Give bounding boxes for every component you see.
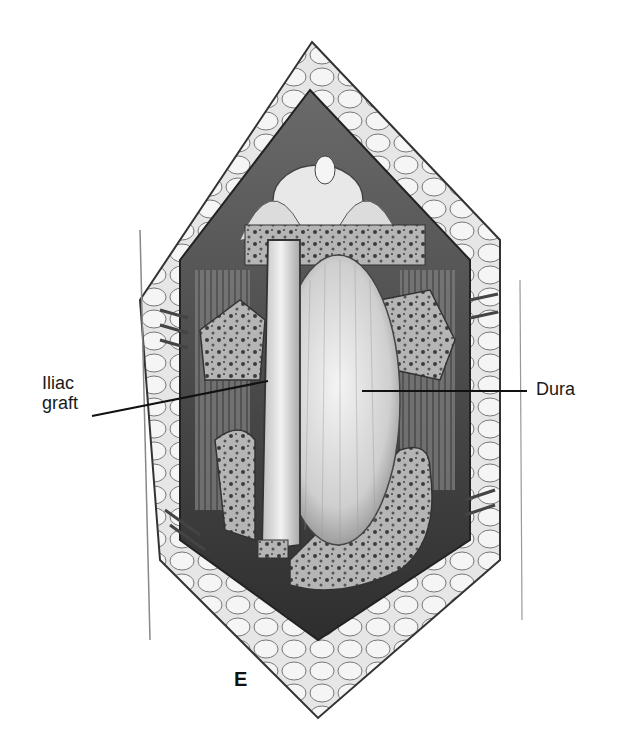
surgical-illustration [0,0,617,732]
label-iliac-line2: graft [42,393,78,413]
label-iliac-graft: Iliac graft [42,373,78,413]
label-iliac-line1: Iliac [42,373,78,393]
panel-letter: E [234,668,247,691]
label-dura-text: Dura [536,379,575,399]
label-dura: Dura [536,379,575,399]
